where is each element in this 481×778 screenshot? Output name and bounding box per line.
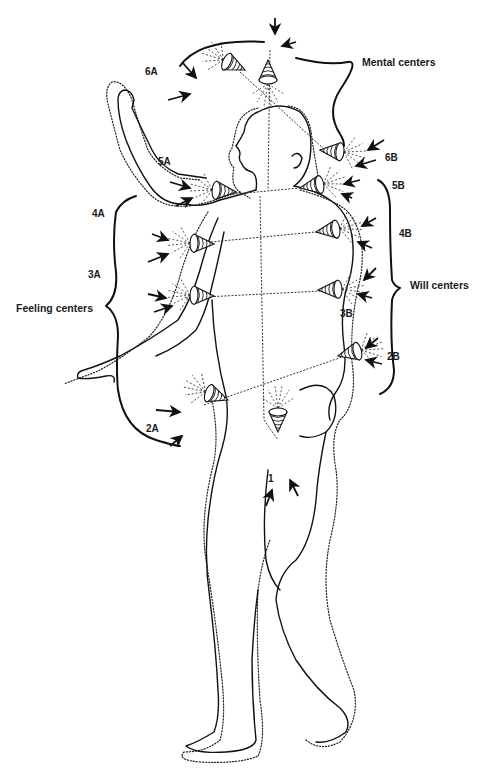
center-cone-1 (262, 386, 294, 432)
center-cone-3b (317, 272, 364, 306)
incoming-arrows (148, 18, 384, 506)
center-label-2a: 2A (146, 424, 159, 434)
center-label-2b: 2B (387, 352, 400, 362)
center-label-4b: 4B (399, 229, 412, 239)
center-label-3a: 3A (88, 270, 101, 280)
center-cone-4a (167, 226, 214, 260)
center-cone-2b (334, 329, 386, 371)
center-cone-7 (252, 60, 284, 106)
group-braces (106, 42, 400, 447)
feeling-centers-brace (106, 196, 180, 446)
center-label-4a: 4A (92, 209, 105, 219)
feeling-centers-label: Feeling centers (16, 303, 93, 314)
center-label-1: 1 (268, 474, 274, 484)
center-label-6a: 6A (145, 67, 158, 77)
center-cone-3a (167, 278, 214, 312)
mental-centers-label: Mental centers (362, 57, 436, 68)
center-label-6b: 6B (385, 153, 398, 163)
energy-centers-diagram: Mental centers Feeling centers Will cent… (0, 0, 481, 778)
center-cone-4b (314, 210, 364, 248)
human-figure-illustration (0, 0, 481, 778)
center-label-5a: 5A (158, 157, 171, 167)
center-label-5b: 5B (392, 181, 405, 191)
will-centers-label: Will centers (410, 280, 469, 291)
center-label-3b: 3B (340, 309, 353, 319)
